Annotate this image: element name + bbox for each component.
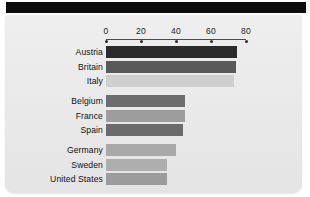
bar-row: Sweden (5, 159, 302, 171)
bar-row: France (5, 110, 302, 122)
bar (106, 46, 237, 58)
x-axis-tick-20 (140, 40, 143, 43)
x-axis-tick-label-0: 0 (104, 26, 109, 36)
bar-chart-plot: 020406080AustriaBritainItalyBelgiumFranc… (5, 15, 302, 193)
x-axis-tick-60 (210, 40, 213, 43)
x-axis-tick-80 (245, 40, 248, 43)
bar (106, 75, 234, 87)
x-axis-tick-label-40: 40 (171, 26, 181, 36)
x-axis-tick-0 (105, 40, 108, 43)
bar (106, 110, 185, 122)
x-axis-tick-label-60: 60 (206, 26, 216, 36)
bar-category-label: Sweden (71, 159, 103, 171)
bar (106, 159, 167, 171)
chart-screenshot: 020406080AustriaBritainItalyBelgiumFranc… (0, 0, 310, 197)
x-axis-tick-40 (175, 40, 178, 43)
bar-row: Germany (5, 144, 302, 156)
bar-row: Austria (5, 46, 302, 58)
bar-row: Belgium (5, 95, 302, 107)
bar (106, 144, 176, 156)
bar (106, 173, 167, 185)
chart-panel: 020406080AustriaBritainItalyBelgiumFranc… (5, 15, 302, 193)
bar-category-label: Spain (81, 124, 103, 136)
bar-category-label: United States (50, 173, 103, 185)
top-black-banner (6, 2, 306, 13)
bar (106, 95, 185, 107)
bar-category-label: Italy (87, 75, 103, 87)
x-axis-tick-label-80: 80 (241, 26, 251, 36)
x-axis-tick-label-20: 20 (136, 26, 146, 36)
bar-category-label: Austria (76, 46, 103, 58)
bar-row: United States (5, 173, 302, 185)
bar-row: Spain (5, 124, 302, 136)
bar (106, 124, 183, 136)
bar-row: Italy (5, 75, 302, 87)
bar (106, 61, 236, 73)
bar-category-label: France (76, 110, 103, 122)
bar-category-label: Belgium (71, 95, 103, 107)
bar-category-label: Germany (67, 144, 103, 156)
bar-row: Britain (5, 61, 302, 73)
bar-category-label: Britain (78, 61, 103, 73)
